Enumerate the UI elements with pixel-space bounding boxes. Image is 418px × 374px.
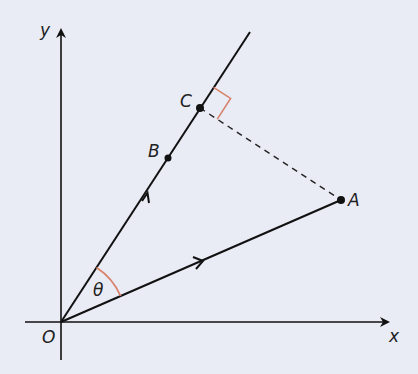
label-origin: O [42,327,55,347]
label-c: C [180,91,192,111]
point-b [165,155,172,162]
point-c [196,104,204,112]
label-y: y [39,20,51,40]
perpendicular-ac [200,108,341,200]
point-a [337,196,345,204]
label-theta: θ [93,280,104,300]
label-a: A [347,190,360,210]
label-x: x [388,326,400,346]
label-b: B [148,141,160,161]
line-obc [61,32,250,322]
vector-projection-diagram: y x O A B C θ [0,0,418,374]
right-angle-marker [214,87,231,119]
